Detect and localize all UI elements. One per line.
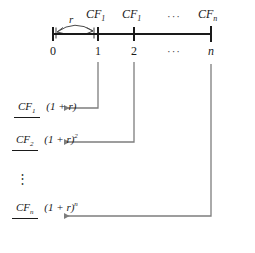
pv-1-numerator-base: CF — [18, 100, 32, 112]
cashflow-label-2: CF1 — [122, 7, 141, 23]
period-label-2: 2 — [125, 44, 143, 59]
cashflow-label-ellipsis: ··· — [162, 10, 186, 22]
pv-1-numerator: CF1 — [14, 100, 40, 118]
tick-mark-n — [210, 26, 212, 42]
pv-2-denominator: (1 + r)2 — [40, 131, 82, 146]
present-value-term-2: CF2 (1 + r)2 — [12, 131, 62, 151]
pv-n-denominator-exp: n — [74, 200, 78, 208]
pv-n-denominator: (1 + r)n — [40, 199, 82, 214]
cashflow-label-1-sub: 1 — [101, 14, 105, 23]
pv-1-numerator-sub: 1 — [32, 107, 36, 115]
rate-label: r — [69, 13, 73, 25]
connector-period-n — [64, 64, 211, 216]
period-label-1: 1 — [89, 44, 107, 59]
cashflow-label-1-base: CF — [86, 7, 101, 21]
period-label-0: 0 — [44, 44, 62, 59]
pv-2-numerator-base: CF — [16, 133, 30, 145]
rate-arc — [56, 25, 94, 38]
pv-2-numerator-sub: 2 — [30, 140, 34, 148]
dcf-timeline-figure: r CF1 CF1 ··· CFn 0 1 2 ··· n CF1 (1 + r… — [0, 0, 255, 253]
tick-mark-0 — [52, 27, 54, 41]
tick-mark-2 — [133, 27, 135, 41]
pv-n-numerator-sub: n — [30, 208, 34, 216]
pv-n-numerator-base: CF — [16, 201, 30, 213]
vertical-ellipsis: ⋮ — [16, 172, 28, 185]
tick-mark-1 — [97, 27, 99, 41]
pv-2-denominator-base: (1 + r) — [44, 133, 74, 145]
present-value-term-1: CF1 (1 + r) — [14, 98, 60, 118]
period-label-ellipsis: ··· — [162, 45, 186, 57]
pv-2-numerator: CF2 — [12, 133, 38, 151]
pv-2-denominator-exp: 2 — [74, 132, 78, 140]
cashflow-label-n: CFn — [198, 7, 217, 23]
cashflow-label-2-base: CF — [122, 7, 137, 21]
present-value-term-n: CFn (1 + r)n — [12, 199, 62, 219]
pv-1-denominator-base: (1 + r) — [46, 100, 76, 112]
pv-n-numerator: CFn — [12, 201, 38, 219]
pv-1-denominator: (1 + r) — [42, 98, 80, 113]
cashflow-label-n-sub: n — [213, 14, 217, 23]
period-label-n: n — [202, 44, 220, 59]
timeline-axis — [52, 33, 212, 35]
cashflow-label-2-sub: 1 — [137, 14, 141, 23]
pv-n-denominator-base: (1 + r) — [44, 201, 74, 213]
cashflow-label-1: CF1 — [86, 7, 105, 23]
cashflow-label-n-base: CF — [198, 7, 213, 21]
